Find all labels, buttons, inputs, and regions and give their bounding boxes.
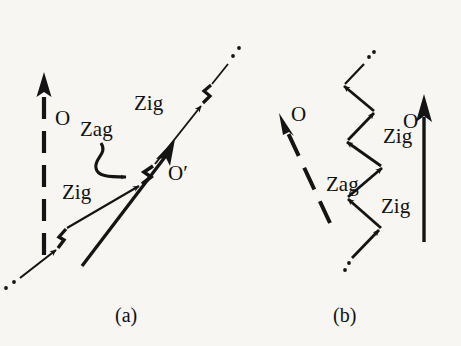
panel-a-worldline [4,46,241,290]
panel-a-zag-pointer [96,143,126,177]
panel-b-label-o: O [291,102,306,126]
panel-a-label-zig-lower: Zig [62,180,92,204]
panel-a: O Zag Zig Zig O′ (a) [4,46,241,327]
panel-b-label-zag: Zag [326,172,359,196]
panel-a-label-zig-upper: Zig [134,91,164,115]
worldline-kink-lower [58,229,66,248]
worldline-kink-upper [203,85,211,103]
panel-a-label-o-prime: O′ [168,161,188,185]
worldline-b-upper-dots [367,50,376,59]
panel-a-label-zag: Zag [80,117,113,141]
zag-pointer-curve [96,143,126,177]
worldline-upper-dots [231,46,241,58]
panel-b-axis-o [279,113,330,223]
figure-container: O Zag Zig Zig O′ (a) [0,0,461,346]
worldline-b-seg2 [348,199,381,228]
worldline-b-lower-dots [343,261,351,272]
worldline-b-seg4 [347,142,381,166]
worldline-b-seg1 [352,230,379,258]
axis-o-shaft-b [288,133,330,223]
worldline-b-seg6 [344,86,374,111]
panel-b-caption: (b) [333,304,356,327]
worldline-b-seg7 [345,64,364,84]
panel-a-axis-o [37,72,52,255]
axis-o-arrowhead [37,72,52,97]
panel-b-worldline [343,50,382,272]
panel-b: O Zig Zag Zig O′ (b) [279,50,432,327]
panel-a-axis-o-prime [82,139,175,266]
worldline-lower-dots [4,280,16,290]
panel-a-label-o: O [55,106,70,130]
worldline-seg-lower [20,250,56,278]
worldline-b-seg5 [348,113,374,140]
panel-b-label-o-prime: O′ [403,109,423,133]
panel-b-label-zig-lower: Zig [381,194,411,218]
worldline-seg-top [212,64,228,84]
panel-a-caption: (a) [115,304,137,327]
figure-svg: O Zag Zig Zig O′ (a) [0,0,461,346]
